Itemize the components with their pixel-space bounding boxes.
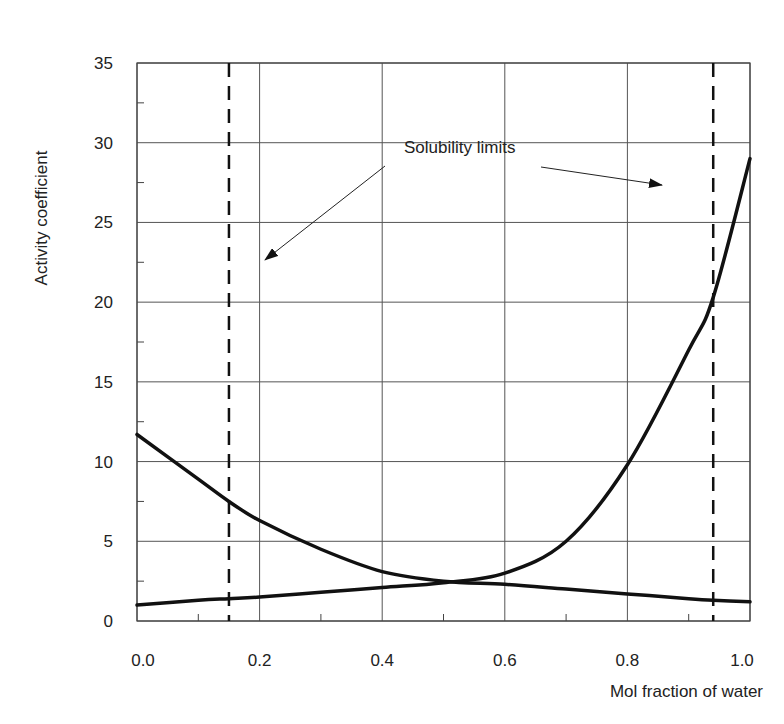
y-tick-label: 0: [104, 612, 113, 631]
x-tick-label: 0.0: [131, 651, 155, 670]
y-tick-label: 10: [94, 453, 113, 472]
y-tick-label: 25: [94, 213, 113, 232]
y-axis-title: Activity coefficient: [32, 150, 51, 285]
arrow-left: [265, 166, 385, 260]
arrow-right: [541, 167, 662, 185]
x-tick-label: 0.4: [370, 651, 394, 670]
activity-coefficient-chart: Solubility limits 05101520253035 0.00.20…: [0, 0, 784, 724]
y-tick-label: 35: [94, 54, 113, 73]
x-tick-label: 0.8: [616, 651, 640, 670]
solubility-annotation: Solubility limits: [265, 138, 662, 260]
x-tick-label: 0.2: [248, 651, 272, 670]
x-axis-title: Mol fraction of water: [610, 682, 763, 701]
x-tick-label: 0.6: [493, 651, 517, 670]
y-axis-tick-labels: 05101520253035: [94, 54, 113, 631]
minor-ticks: [137, 103, 689, 621]
x-axis-tick-labels: 0.00.20.40.60.81.0: [131, 651, 754, 670]
annotation-text: Solubility limits: [404, 138, 515, 157]
y-tick-label: 20: [94, 293, 113, 312]
x-tick-label: 1.0: [730, 651, 754, 670]
y-tick-label: 30: [94, 134, 113, 153]
y-tick-label: 15: [94, 373, 113, 392]
y-tick-label: 5: [104, 532, 113, 551]
